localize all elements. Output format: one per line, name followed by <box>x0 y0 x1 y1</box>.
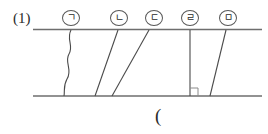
circled-label-c: ㄷ <box>145 10 163 26</box>
circled-label-c-text: ㄷ <box>150 12 159 23</box>
right-angle-mark <box>190 88 198 96</box>
circled-label-d: ㄹ <box>181 10 199 26</box>
answer-bracket: ( <box>155 106 161 126</box>
wavy-transversal-a <box>64 30 71 96</box>
transversals-group <box>64 30 226 96</box>
transversal-b <box>95 30 118 96</box>
problem-number: (1) <box>13 10 31 27</box>
transversal-e <box>210 30 226 96</box>
circled-label-b-text: ㄴ <box>115 12 124 23</box>
circled-label-e: ㅁ <box>219 10 237 26</box>
circled-label-e-text: ㅁ <box>224 12 233 23</box>
circled-label-d-text: ㄹ <box>186 12 195 23</box>
geometry-figure: (1) ㄱ ㄴ ㄷ ㄹ ㅁ ( <box>0 0 268 134</box>
circled-label-b: ㄴ <box>110 10 128 26</box>
circled-label-a: ㄱ <box>62 10 80 26</box>
transversal-c <box>112 30 149 96</box>
circled-label-a-text: ㄱ <box>67 12 76 23</box>
